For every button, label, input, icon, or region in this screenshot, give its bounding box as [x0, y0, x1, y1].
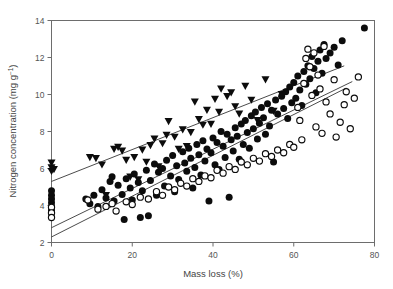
data-point-filled-circle — [274, 110, 281, 117]
data-point-filled-circle — [151, 160, 158, 167]
data-point-open-circle — [291, 144, 297, 150]
data-point-open-circle — [202, 173, 208, 179]
data-point-filled-circle — [167, 172, 174, 179]
data-point-filled-circle — [181, 159, 188, 166]
data-point-open-circle — [172, 187, 178, 193]
data-point-filled-circle — [123, 175, 130, 182]
data-point-filled-circle — [205, 197, 212, 204]
data-point-open-circle — [331, 77, 337, 83]
data-point-filled-circle — [103, 195, 110, 202]
y-axis-label-base: Nitrogen concentration (mg g — [7, 75, 18, 198]
data-point-open-circle — [327, 111, 333, 117]
data-point-open-circle — [123, 199, 129, 205]
data-point-filled-circle — [260, 114, 267, 121]
scatter-plot: 0204060802468101214 Mass loss (%) Nitrog… — [0, 0, 393, 289]
data-point-filled-circle — [214, 139, 221, 146]
data-point-open-circle — [347, 126, 353, 132]
data-point-filled-circle — [220, 143, 227, 150]
data-point-filled-circle — [254, 135, 261, 142]
data-point-open-circle — [299, 137, 305, 143]
data-point-open-circle — [355, 74, 361, 80]
data-point-open-circle — [305, 46, 311, 52]
data-point-filled-circle — [361, 24, 368, 31]
data-point-filled-circle — [137, 214, 144, 221]
data-point-filled-circle — [258, 104, 265, 111]
data-point-filled-circle — [294, 73, 301, 80]
data-point-open-circle — [95, 206, 101, 212]
data-point-open-circle — [315, 72, 321, 78]
y-tick-label: 8 — [40, 127, 45, 137]
data-point-filled-circle — [185, 145, 192, 152]
data-point-open-circle — [145, 196, 151, 202]
data-point-open-circle — [48, 214, 54, 220]
data-point-filled-circle — [109, 173, 116, 180]
data-point-open-circle — [351, 95, 357, 101]
data-point-open-circle — [343, 89, 349, 95]
data-point-open-circle — [297, 117, 303, 123]
y-tick-label: 6 — [40, 164, 45, 174]
data-point-open-circle — [184, 183, 190, 189]
data-point-open-circle — [333, 134, 339, 140]
data-point-filled-circle — [339, 37, 346, 44]
data-point-open-circle — [341, 102, 347, 108]
data-point-filled-circle — [246, 145, 253, 152]
data-point-open-circle — [262, 151, 268, 157]
data-point-filled-circle — [331, 44, 338, 51]
data-point-open-circle — [309, 92, 315, 98]
data-point-open-circle — [190, 176, 196, 182]
y-tick-label: 12 — [35, 53, 45, 63]
data-point-filled-circle — [195, 151, 202, 158]
data-point-open-circle — [103, 203, 109, 209]
x-tick-label: 80 — [370, 250, 380, 260]
data-point-filled-circle — [179, 148, 186, 155]
data-point-open-circle — [319, 130, 325, 136]
data-point-filled-circle — [218, 128, 225, 135]
data-point-open-circle — [159, 192, 165, 198]
y-tick-label: 4 — [40, 201, 45, 211]
x-tick-label: 40 — [208, 250, 218, 260]
data-point-open-circle — [220, 170, 226, 176]
data-point-filled-circle — [232, 124, 239, 131]
y-tick-label: 2 — [40, 238, 45, 248]
data-point-open-circle — [226, 164, 232, 170]
x-tick-label: 60 — [289, 250, 299, 260]
data-point-filled-circle — [222, 154, 229, 161]
data-point-open-circle — [129, 201, 135, 207]
data-point-filled-circle — [159, 165, 166, 172]
data-point-filled-circle — [145, 212, 152, 219]
data-point-filled-circle — [268, 107, 275, 114]
data-point-open-circle — [250, 155, 256, 161]
data-point-filled-circle — [173, 162, 180, 169]
data-point-open-circle — [256, 158, 262, 164]
y-tick-label: 10 — [35, 90, 45, 100]
data-point-filled-circle — [127, 184, 134, 191]
data-point-open-circle — [313, 124, 319, 130]
data-point-filled-circle — [147, 177, 154, 184]
data-point-filled-circle — [193, 141, 200, 148]
data-point-filled-circle — [135, 179, 142, 186]
data-point-filled-circle — [139, 187, 146, 194]
data-point-filled-circle — [98, 186, 105, 193]
x-axis-label: Mass loss (%) — [183, 268, 243, 279]
y-axis-label: Nitrogen concentration (mg g−1) — [7, 64, 18, 197]
data-point-open-circle — [295, 104, 301, 110]
data-point-filled-circle — [187, 155, 194, 162]
y-tick-label: 14 — [35, 16, 45, 26]
data-point-filled-circle — [230, 147, 237, 154]
data-point-open-circle — [244, 162, 250, 168]
data-point-filled-circle — [163, 157, 170, 164]
data-point-filled-circle — [262, 131, 269, 138]
data-point-filled-circle — [183, 168, 190, 175]
data-point-filled-circle — [115, 182, 122, 189]
data-point-filled-circle — [296, 86, 303, 93]
data-point-open-circle — [323, 99, 329, 105]
data-point-filled-circle — [201, 158, 208, 165]
data-point-filled-circle — [264, 100, 271, 107]
data-point-filled-circle — [244, 129, 251, 136]
data-point-filled-circle — [242, 117, 249, 124]
data-point-filled-circle — [119, 191, 126, 198]
data-point-open-circle — [303, 55, 309, 61]
data-point-filled-circle — [250, 125, 257, 132]
data-point-filled-circle — [234, 133, 241, 140]
data-point-open-circle — [113, 208, 119, 214]
